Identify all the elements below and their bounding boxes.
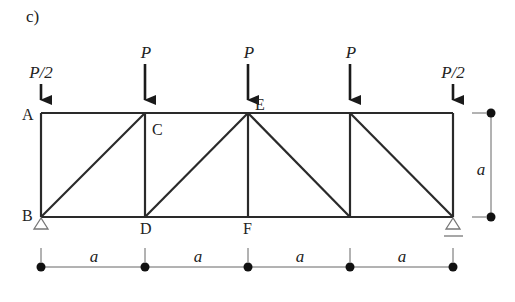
figure-label: c) (26, 7, 39, 26)
load-label-E: P (243, 43, 254, 62)
load-label-A: P/2 (28, 63, 53, 82)
dimension-dot-icon (449, 263, 458, 272)
dimension-dot-icon (141, 263, 150, 272)
load-label-I: P/2 (440, 63, 465, 82)
member-diagonal-GJ (350, 113, 453, 217)
node-label-B: B (22, 207, 33, 224)
member-diagonal-EH (248, 113, 350, 217)
support-pin-B (34, 218, 48, 229)
dimension-dot-icon (37, 263, 46, 272)
roller-support-icon (446, 218, 460, 229)
loads (41, 64, 453, 100)
dimension-dot-icon (487, 109, 496, 118)
load-label-C: P (140, 43, 151, 62)
dimension-dot-icon (346, 263, 355, 272)
node-label-C: C (152, 121, 163, 138)
dimension-label: a (477, 160, 486, 179)
node-label-E: E (255, 96, 265, 113)
truss-diagram: c) P/2 P P P P/2 A B C D E F (0, 0, 515, 302)
dimension-dot-icon (244, 263, 253, 272)
dimension-label: a (398, 247, 407, 266)
pin-support-icon (34, 218, 48, 229)
support-roller-J (444, 218, 463, 236)
member-diagonal-BC (41, 113, 145, 217)
node-label-D: D (140, 220, 152, 237)
dimension-dot-icon (487, 213, 496, 222)
truss-members (41, 113, 453, 217)
node-label-A: A (22, 106, 34, 123)
dimension-label: a (90, 247, 99, 266)
load-label-G: P (345, 43, 356, 62)
node-label-F: F (243, 220, 252, 237)
dimension-label: a (296, 247, 305, 266)
dimension-label: a (194, 247, 203, 266)
